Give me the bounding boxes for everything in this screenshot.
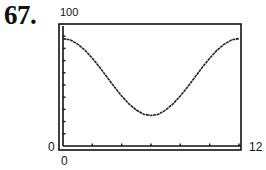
axes [63, 26, 241, 146]
data-curve [63, 39, 239, 116]
axis-ticks [63, 36, 239, 146]
graph-plot [0, 0, 266, 170]
graph-frame [59, 24, 241, 150]
